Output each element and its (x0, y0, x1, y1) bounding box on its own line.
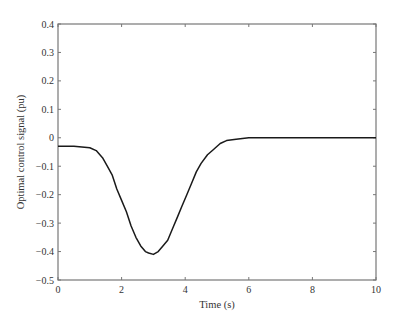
x-axis-label: Time (s) (199, 299, 235, 311)
x-tick-label: 2 (119, 284, 124, 295)
y-tick-label: 0.4 (42, 19, 55, 30)
y-tick-label: 0.1 (42, 104, 55, 115)
y-tick-label: 0.2 (42, 75, 55, 86)
y-axis-label: Optimal control signal (pu) (15, 94, 27, 209)
y-tick-label: 0.3 (42, 47, 55, 58)
x-tick-label: 0 (56, 284, 61, 295)
plot-area: 02468100.40.30.20.10−0.1−0.2−0.3−0.4−0.5… (15, 19, 381, 312)
y-tick-label: −0.3 (36, 218, 54, 229)
plot-frame (58, 24, 376, 280)
x-tick-label: 6 (246, 284, 251, 295)
y-tick-label: −0.1 (36, 161, 54, 172)
y-tick-label: −0.2 (36, 189, 54, 200)
data-line (58, 138, 376, 255)
line-chart: 02468100.40.30.20.10−0.1−0.2−0.3−0.4−0.5… (0, 0, 399, 324)
y-tick-label: 0 (49, 132, 54, 143)
x-tick-label: 4 (183, 284, 188, 295)
y-tick-label: −0.4 (36, 246, 54, 257)
x-tick-label: 10 (371, 284, 381, 295)
x-tick-label: 8 (310, 284, 315, 295)
y-tick-label: −0.5 (36, 275, 54, 286)
